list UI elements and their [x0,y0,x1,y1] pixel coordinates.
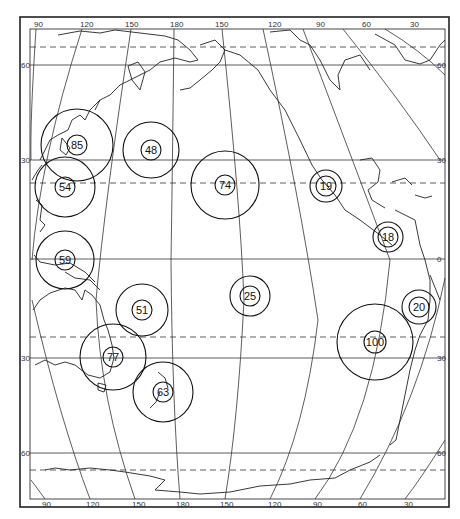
marker-59[interactable]: 59 [36,231,94,289]
marker-85[interactable]: 85 [41,109,113,181]
lon-label: 60 [358,500,367,509]
lat-label: 60 [437,61,446,70]
marker-77[interactable]: 77 [80,324,146,390]
lon-label: 150 [215,20,229,29]
marker-100[interactable]: 100 [337,304,413,380]
marker-value: 19 [320,180,332,192]
map-frame [30,29,445,499]
marker-value: 54 [59,181,71,193]
lat-label: 60 [21,61,30,70]
meridians [31,29,445,499]
lon-label: 90 [42,500,51,509]
lon-label: 180 [170,20,184,29]
marker-value: 18 [382,231,394,243]
lon-label: 150 [125,20,139,29]
lat-label: 0 [437,255,442,264]
lon-label: 120 [268,500,282,509]
lon-label: 90 [313,500,322,509]
marker-48[interactable]: 48 [123,122,179,178]
marker-value: 48 [145,144,157,156]
marker-value: 59 [59,254,71,266]
pacific-map: 90 120 150 180 150 120 90 60 30 90 120 1… [0,0,460,519]
marker-value: 74 [219,179,231,191]
lon-label: 30 [404,500,413,509]
latitude-labels-left: 60 30 30 60 [21,61,30,458]
lat-label: 60 [437,449,446,458]
marker-19[interactable]: 19 [310,170,342,202]
marker-51[interactable]: 51 [116,284,168,336]
lon-label: 120 [80,20,94,29]
lon-label: 180 [176,500,190,509]
lon-label: 30 [410,20,419,29]
marker-value: 77 [107,351,119,363]
lon-label: 60 [362,20,371,29]
lat-label: 30 [21,156,30,165]
marker-value: 25 [244,290,256,302]
marker-54[interactable]: 54 [35,157,95,217]
marker-value: 100 [366,336,384,348]
outer-frame [20,17,449,507]
marker-value: 85 [71,139,83,151]
marker-25[interactable]: 25 [230,276,270,316]
marker-value: 63 [157,386,169,398]
marker-18[interactable]: 18 [373,222,403,252]
marker-value: 20 [413,301,425,313]
lat-label: 30 [437,354,446,363]
lon-label: 90 [34,20,43,29]
longitude-labels-bottom: 90 120 150 180 150 120 90 60 30 [42,500,413,509]
marker-value: 51 [136,304,148,316]
lon-label: 120 [86,500,100,509]
lat-label: 30 [21,354,30,363]
lat-label: 60 [21,449,30,458]
lon-label: 90 [316,20,325,29]
marker-20[interactable]: 20 [402,290,436,324]
longitude-labels-top: 90 120 150 180 150 120 90 60 30 [34,20,419,29]
parallels [30,47,445,470]
lat-label: 30 [437,156,446,165]
lon-label: 150 [220,500,234,509]
lon-label: 150 [132,500,146,509]
lon-label: 120 [268,20,282,29]
markers: 85 54 48 74 19 18 59 [35,109,436,422]
marker-74[interactable]: 74 [191,151,259,219]
marker-63[interactable]: 63 [133,362,193,422]
